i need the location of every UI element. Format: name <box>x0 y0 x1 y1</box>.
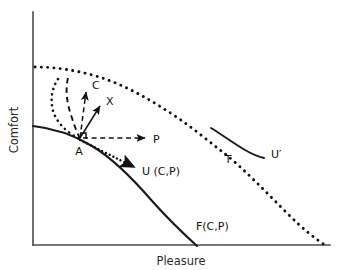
label-frontier-curve: F(C,P) <box>196 220 229 233</box>
x-axis-title: Pleasure <box>156 254 205 268</box>
curve-frontier-f <box>33 126 197 246</box>
label-vector-c: C <box>92 79 100 92</box>
label-utility-curve: U (C,P) <box>142 165 180 178</box>
arrow-utility-gradient <box>80 140 134 167</box>
label-tangency-point-t: T <box>224 153 232 166</box>
y-axis-title: Comfort <box>7 106 21 153</box>
label-utility-curve-prime: U′ <box>271 148 282 161</box>
label-vector-p: P <box>153 133 160 146</box>
figure-canvas: A C X P U (C,P) F(C,P) T U′ Pleasure Com… <box>0 0 341 270</box>
curve-u-prime-tangent-arc <box>211 128 264 158</box>
label-point-a: A <box>75 145 83 158</box>
economics-comfort-pleasure-diagram: A C X P U (C,P) F(C,P) T U′ Pleasure Com… <box>0 0 341 270</box>
curve-inner-indifference-dashed <box>67 78 80 139</box>
label-vector-x: X <box>106 95 114 108</box>
